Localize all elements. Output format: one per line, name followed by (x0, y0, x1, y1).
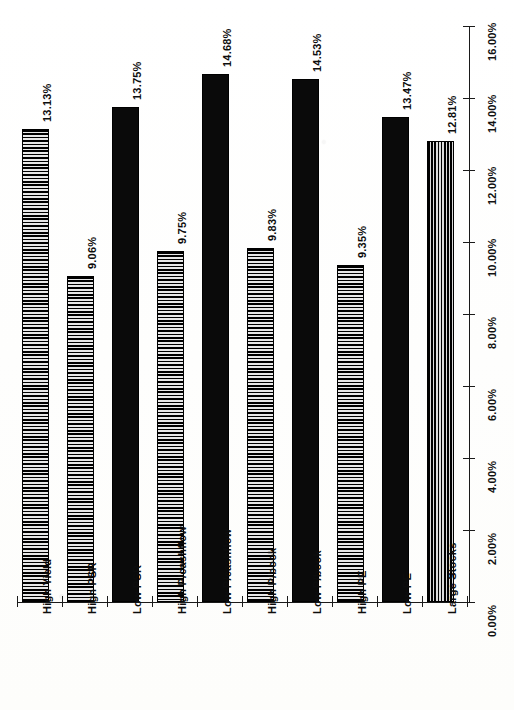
bar (337, 265, 364, 602)
category-axis-tick (287, 596, 288, 607)
category-axis-tick (107, 596, 108, 607)
bar-value-label: 13.47% (401, 72, 413, 111)
category-label: High Yield (41, 559, 53, 614)
category-axis-tick (242, 596, 243, 607)
bar-value-label: 12.81% (446, 95, 458, 134)
category-axis-tick (62, 596, 63, 607)
category-label: Large Stocks (446, 543, 458, 614)
value-axis-tick-label: 12.00% (486, 135, 498, 205)
category-axis-tick (332, 596, 333, 607)
bar (292, 79, 319, 602)
value-axis-tick (463, 26, 475, 27)
value-axis-tick (463, 242, 475, 243)
value-axis-tick-label: 16.00% (486, 0, 498, 61)
bar-value-label: 13.13% (41, 84, 53, 123)
bar (202, 74, 229, 602)
bar (427, 141, 454, 602)
category-label: High PE (356, 570, 368, 614)
category-label: Low P/book (311, 550, 323, 614)
bar-value-label: 13.75% (131, 61, 143, 100)
value-axis-tick-label: 2.00% (486, 495, 498, 565)
value-axis-tick-label: 14.00% (486, 63, 498, 133)
category-axis-tick (152, 596, 153, 607)
category-label: High PSR (86, 562, 98, 614)
bar-value-label: 14.53% (311, 33, 323, 72)
bar-value-label: 9.06% (86, 237, 98, 269)
bar (382, 117, 409, 602)
value-axis-tick (463, 170, 475, 171)
bar-value-label: 9.83% (266, 209, 278, 241)
value-axis-tick (463, 98, 475, 99)
category-label: High P/book (266, 548, 278, 614)
value-axis-tick-label: 10.00% (486, 207, 498, 277)
bar (22, 129, 49, 602)
value-axis-tick (463, 314, 475, 315)
value-axis-tick-label: 8.00% (486, 279, 498, 349)
bar-value-label: 9.75% (176, 212, 188, 244)
category-axis-tick (422, 596, 423, 607)
category-label: Low P/cashflow (221, 529, 233, 614)
category-axis-tick (197, 596, 198, 607)
category-axis-tick (17, 596, 18, 607)
value-axis-tick (463, 386, 475, 387)
bar-value-label: 9.35% (356, 226, 368, 258)
category-label: Low PE (401, 573, 413, 614)
value-axis-tick-label: 4.00% (486, 423, 498, 493)
bar-chart: 0.00%2.00%4.00%6.00%8.00%10.00%12.00%14.… (0, 0, 514, 710)
category-label: High P/cashflow (176, 526, 188, 614)
value-axis-tick-label: 6.00% (486, 351, 498, 421)
bar (67, 276, 94, 602)
value-axis-tick-label: 0.00% (486, 567, 498, 637)
bar (112, 107, 139, 602)
bar-value-label: 14.68% (221, 28, 233, 67)
value-axis-tick (463, 458, 475, 459)
category-label: Low PSR (131, 565, 143, 614)
category-axis-tick (377, 596, 378, 607)
category-axis-tick (467, 596, 468, 607)
value-axis-tick (463, 530, 475, 531)
